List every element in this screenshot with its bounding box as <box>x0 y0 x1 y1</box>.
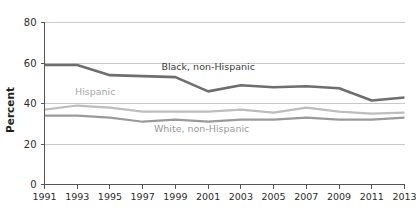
y-axis-title: Percent <box>4 87 16 133</box>
y-tick-label-20: 20 <box>24 139 37 150</box>
x-tick-label-2013: 2013 <box>392 191 416 202</box>
y-tick-label-80: 80 <box>24 17 37 28</box>
x-tick-label-2003: 2003 <box>229 191 253 202</box>
x-tick-label-1999: 1999 <box>163 191 187 202</box>
x-tick-label-1993: 1993 <box>65 191 89 202</box>
chart-container: Percent 020406080 1991199319951997199920… <box>0 0 416 220</box>
x-tick-label-2007: 2007 <box>294 191 318 202</box>
line-chart: Percent 020406080 1991199319951997199920… <box>0 0 416 220</box>
series-label-black-non-hispanic: Black, non-Hispanic <box>161 61 255 72</box>
y-tick-label-0: 0 <box>30 179 36 190</box>
series-label-white-non-hispanic: White, non-Hispanic <box>154 123 249 134</box>
x-tick-label-2011: 2011 <box>360 191 384 202</box>
x-tick-label-1991: 1991 <box>32 191 56 202</box>
x-tick-label-1997: 1997 <box>131 191 155 202</box>
series-label-hispanic: Hispanic <box>75 86 115 97</box>
y-tick-label-40: 40 <box>24 98 37 109</box>
x-tick-label-2009: 2009 <box>327 191 351 202</box>
x-tick-label-2001: 2001 <box>196 191 220 202</box>
x-tick-label-2005: 2005 <box>261 191 285 202</box>
x-tick-label-1995: 1995 <box>98 191 122 202</box>
y-tick-label-60: 60 <box>24 58 37 69</box>
